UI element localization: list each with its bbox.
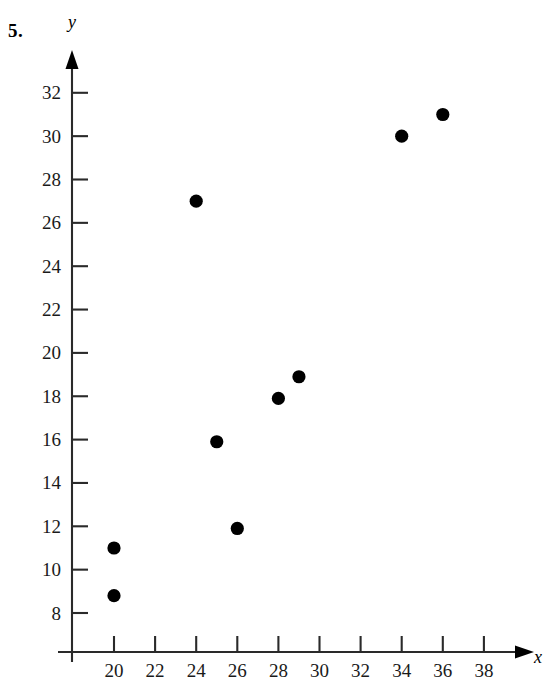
x-tick-label: 22 bbox=[146, 660, 165, 681]
data-point bbox=[107, 589, 120, 602]
y-tick-label: 24 bbox=[42, 256, 62, 277]
x-tick-label: 24 bbox=[187, 660, 207, 681]
y-tick-label: 10 bbox=[42, 559, 61, 580]
x-tick-label: 32 bbox=[351, 660, 370, 681]
data-point bbox=[292, 370, 305, 383]
data-point bbox=[436, 108, 449, 121]
y-tick-label: 18 bbox=[42, 386, 61, 407]
y-tick-label: 8 bbox=[52, 603, 62, 624]
data-point bbox=[272, 392, 285, 405]
y-tick-label: 20 bbox=[42, 342, 61, 363]
y-tick-label: 16 bbox=[42, 429, 61, 450]
x-tick-label: 26 bbox=[228, 660, 247, 681]
data-point bbox=[210, 435, 223, 448]
y-tick-label: 22 bbox=[42, 299, 61, 320]
y-tick-label: 28 bbox=[42, 169, 61, 190]
y-tick-label: 30 bbox=[42, 126, 61, 147]
y-tick-label: 14 bbox=[42, 472, 62, 493]
data-point-series bbox=[107, 108, 449, 602]
x-axis: 20222426283032343638 bbox=[58, 636, 534, 681]
y-axis: 8101214161820222426283032 bbox=[42, 50, 88, 662]
scatter-plot-figure: 5. y x 8101214161820222426283032 2022242… bbox=[0, 0, 557, 687]
x-tick-label: 36 bbox=[433, 660, 452, 681]
data-point bbox=[231, 522, 244, 535]
data-point bbox=[190, 195, 203, 208]
x-tick-label: 38 bbox=[474, 660, 493, 681]
data-point bbox=[107, 541, 120, 554]
x-tick-label: 34 bbox=[392, 660, 412, 681]
x-tick-label: 20 bbox=[105, 660, 124, 681]
x-tick-label: 28 bbox=[269, 660, 288, 681]
scatter-plot-canvas: 8101214161820222426283032 20222426283032… bbox=[0, 0, 557, 687]
y-tick-label: 26 bbox=[42, 212, 61, 233]
y-tick-label: 12 bbox=[42, 516, 61, 537]
x-tick-label: 30 bbox=[310, 660, 329, 681]
data-point bbox=[395, 130, 408, 143]
y-tick-label: 32 bbox=[42, 82, 61, 103]
